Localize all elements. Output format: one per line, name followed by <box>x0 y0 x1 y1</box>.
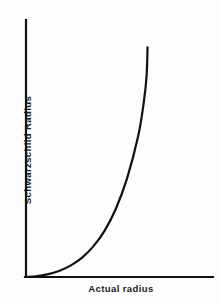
y-axis-label: Schwarzschild Radius <box>22 70 35 230</box>
chart-figure: Actual radius Schwarzschild Radius <box>0 0 220 303</box>
x-axis-label: Actual radius <box>0 283 220 294</box>
data-curve <box>26 47 148 277</box>
